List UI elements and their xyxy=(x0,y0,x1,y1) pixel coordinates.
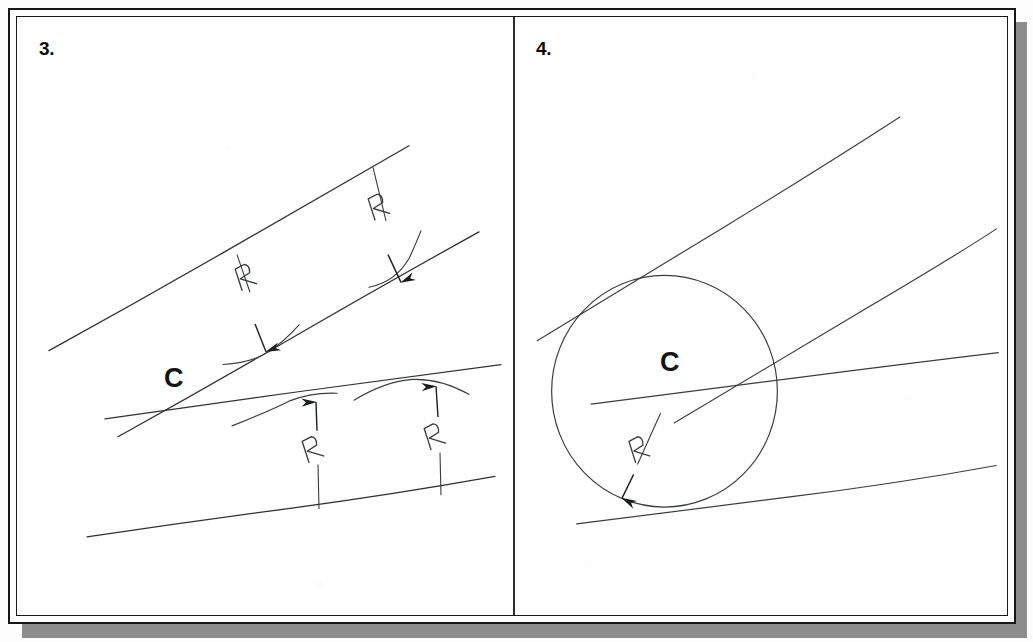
inner-frame: 3. xyxy=(16,16,1008,616)
fillet-arc-mid-left xyxy=(223,325,299,365)
radius-callout-3 xyxy=(316,402,319,509)
line-upper-tangent xyxy=(537,117,900,341)
panel-3-center-label: C xyxy=(164,363,184,394)
arrow-1 xyxy=(388,255,401,283)
arrow-3 xyxy=(316,402,317,431)
radius-letter-1 xyxy=(365,193,391,221)
outer-frame: 3. xyxy=(8,8,1016,624)
radius-letter-3 xyxy=(299,435,325,463)
worksheet-page: 3. xyxy=(0,0,1033,642)
radius-letter-1 xyxy=(626,435,651,463)
radius-callout-1 xyxy=(373,167,401,282)
line-through-center xyxy=(591,353,998,404)
panel-3-construction-lines xyxy=(49,146,501,537)
panel-4-sketch xyxy=(514,17,1007,615)
radius-letter-4 xyxy=(421,423,447,451)
panel-4-center-label: C xyxy=(660,347,680,378)
line-lower-tangent xyxy=(577,466,997,524)
line-upper-a xyxy=(49,146,409,351)
leader-line-3 xyxy=(318,465,319,510)
arrow-4 xyxy=(436,386,438,417)
panel-problem-3: 3. xyxy=(17,17,513,615)
line-right-tangent xyxy=(674,229,996,423)
line-upper-b xyxy=(118,232,479,437)
panel-problem-4: 4. xyxy=(514,17,1007,615)
panel-3-radius-letters xyxy=(232,193,447,463)
panel-4-radius-callout xyxy=(622,413,661,498)
panel-3-sketch xyxy=(17,17,513,615)
line-lower xyxy=(87,476,495,536)
arrow-2 xyxy=(255,324,266,352)
radius-arrow xyxy=(622,474,634,498)
panel-4-radius-letter xyxy=(626,435,651,463)
panel-4-construction-lines xyxy=(537,117,998,524)
main-circle xyxy=(552,275,778,507)
radius-callout-2 xyxy=(237,255,266,352)
fillet-arc-lower-left xyxy=(232,393,337,426)
leader-line-4 xyxy=(440,453,441,496)
